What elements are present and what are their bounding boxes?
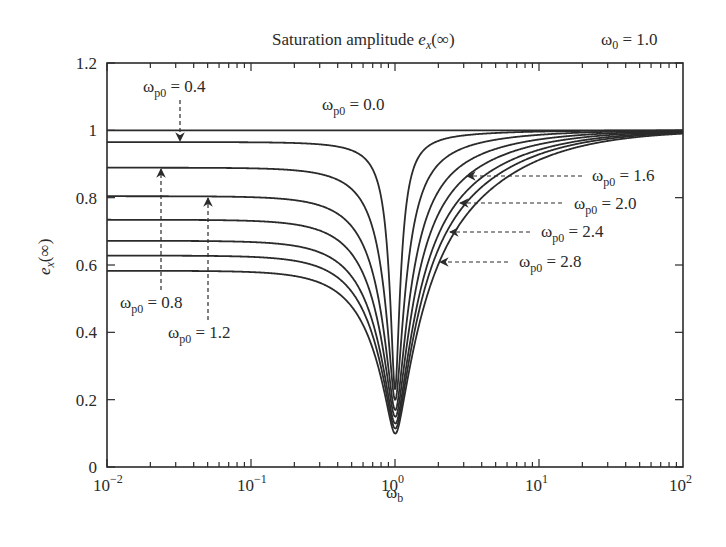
curve-label: ωp0 = 1.2	[168, 323, 231, 346]
omega0-annotation: ω0 = 1.0	[601, 30, 658, 52]
curve-label: ωp0 = 2.8	[519, 252, 582, 275]
y-tick-label: 0.8	[76, 189, 97, 208]
y-tick-label: 0.6	[76, 256, 97, 275]
tick-labels: 10−210−110010110200.20.40.60.811.2	[76, 54, 692, 495]
x-axis-label: ωb	[386, 483, 403, 505]
saturation-amplitude-chart: Saturation amplitude ex(∞) ω0 = 1.0 10−2…	[0, 0, 726, 547]
curve-labels: ωp0 = 0.0ωp0 = 0.4ωp0 = 0.8ωp0 = 1.2ωp0 …	[120, 77, 655, 346]
x-tick-label: 102	[669, 472, 692, 495]
y-tick-label: 0.2	[76, 391, 97, 410]
curve-label: ωp0 = 0.4	[143, 77, 206, 100]
plot-axes	[107, 63, 683, 467]
y-tick-label: 0	[89, 458, 98, 477]
chart-title: Saturation amplitude ex(∞)	[272, 30, 455, 52]
curve-label: ωp0 = 0.0	[322, 95, 385, 118]
curve-label: ωp0 = 2.0	[574, 194, 637, 217]
curve-label: ωp0 = 2.4	[541, 222, 604, 245]
curve-label: ωp0 = 0.8	[120, 293, 183, 316]
y-tick-label: 0.4	[76, 323, 98, 342]
plot-frame	[107, 63, 683, 467]
y-tick-label: 1.2	[76, 54, 97, 73]
y-tick-label: 1	[89, 121, 98, 140]
curve-label: ωp0 = 1.6	[592, 166, 655, 189]
y-axis-label: ex(∞)	[35, 239, 57, 275]
x-tick-label: 10−1	[237, 472, 267, 495]
x-tick-label: 101	[525, 472, 548, 495]
x-tick-label: 10−2	[93, 472, 123, 495]
